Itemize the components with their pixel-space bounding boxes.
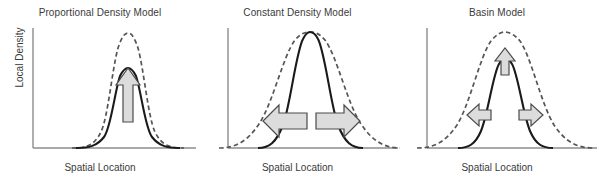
figure-three-density-models: Proportional Density Model Local Density… (0, 0, 599, 181)
x-axis-label: Spatial Location (0, 162, 200, 173)
plot-area (395, 0, 599, 181)
plot-area (0, 0, 200, 181)
panel-proportional-density-model: Proportional Density Model Local Density… (0, 0, 200, 181)
left-arrow-icon (263, 105, 307, 137)
curve-altered-dashed (219, 32, 400, 148)
x-axis-label: Spatial Location (195, 162, 400, 173)
x-axis-label: Spatial Location (395, 162, 599, 173)
panel-basin-model: Basin Model Spatial Location (395, 0, 599, 181)
plot-area (195, 0, 400, 181)
panel-constant-density-model: Constant Density Model Spatial Location (195, 0, 400, 181)
up-arrow-icon (495, 48, 515, 75)
